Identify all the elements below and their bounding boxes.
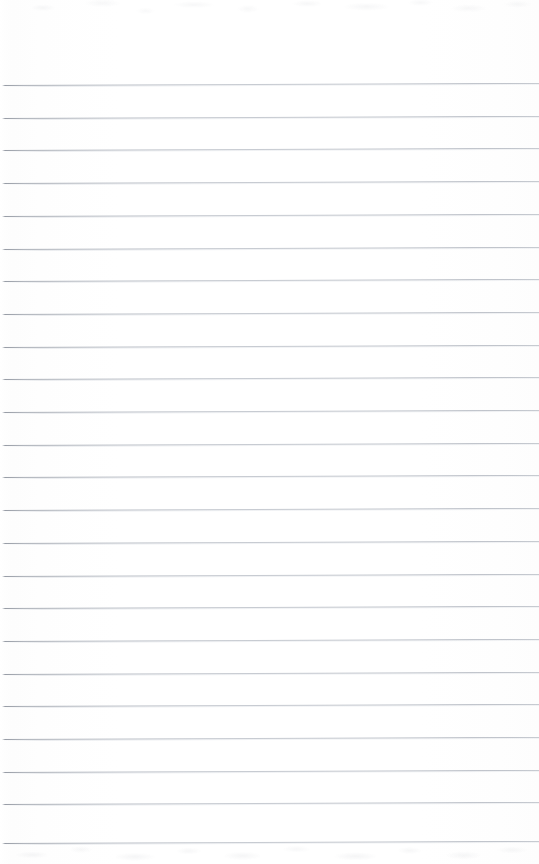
ruled-line [2, 345, 539, 348]
ruled-line [2, 443, 539, 446]
ruled-line [2, 410, 539, 413]
ruled-line [2, 541, 539, 544]
ruled-line [2, 83, 539, 86]
ruled-line [2, 214, 539, 217]
ruled-line [2, 312, 539, 315]
ruled-line [2, 377, 539, 380]
ruled-line [2, 737, 539, 740]
scan-texture-bottom-band [0, 840, 539, 864]
ruled-line [2, 704, 539, 707]
ruled-line [2, 508, 539, 511]
ruled-line-layer [0, 0, 539, 864]
ruled-line [2, 116, 539, 119]
ruled-line [2, 770, 539, 773]
ruled-line [2, 181, 539, 184]
ruled-line [2, 475, 539, 478]
ruled-line [2, 246, 539, 249]
ruled-line [2, 802, 539, 805]
ruled-line [2, 606, 539, 609]
ruled-line [2, 573, 539, 576]
scanned-page [0, 0, 539, 864]
ruled-line [2, 672, 539, 675]
ruled-line [2, 148, 539, 151]
ruled-line [2, 639, 539, 642]
ruled-line [2, 279, 539, 282]
